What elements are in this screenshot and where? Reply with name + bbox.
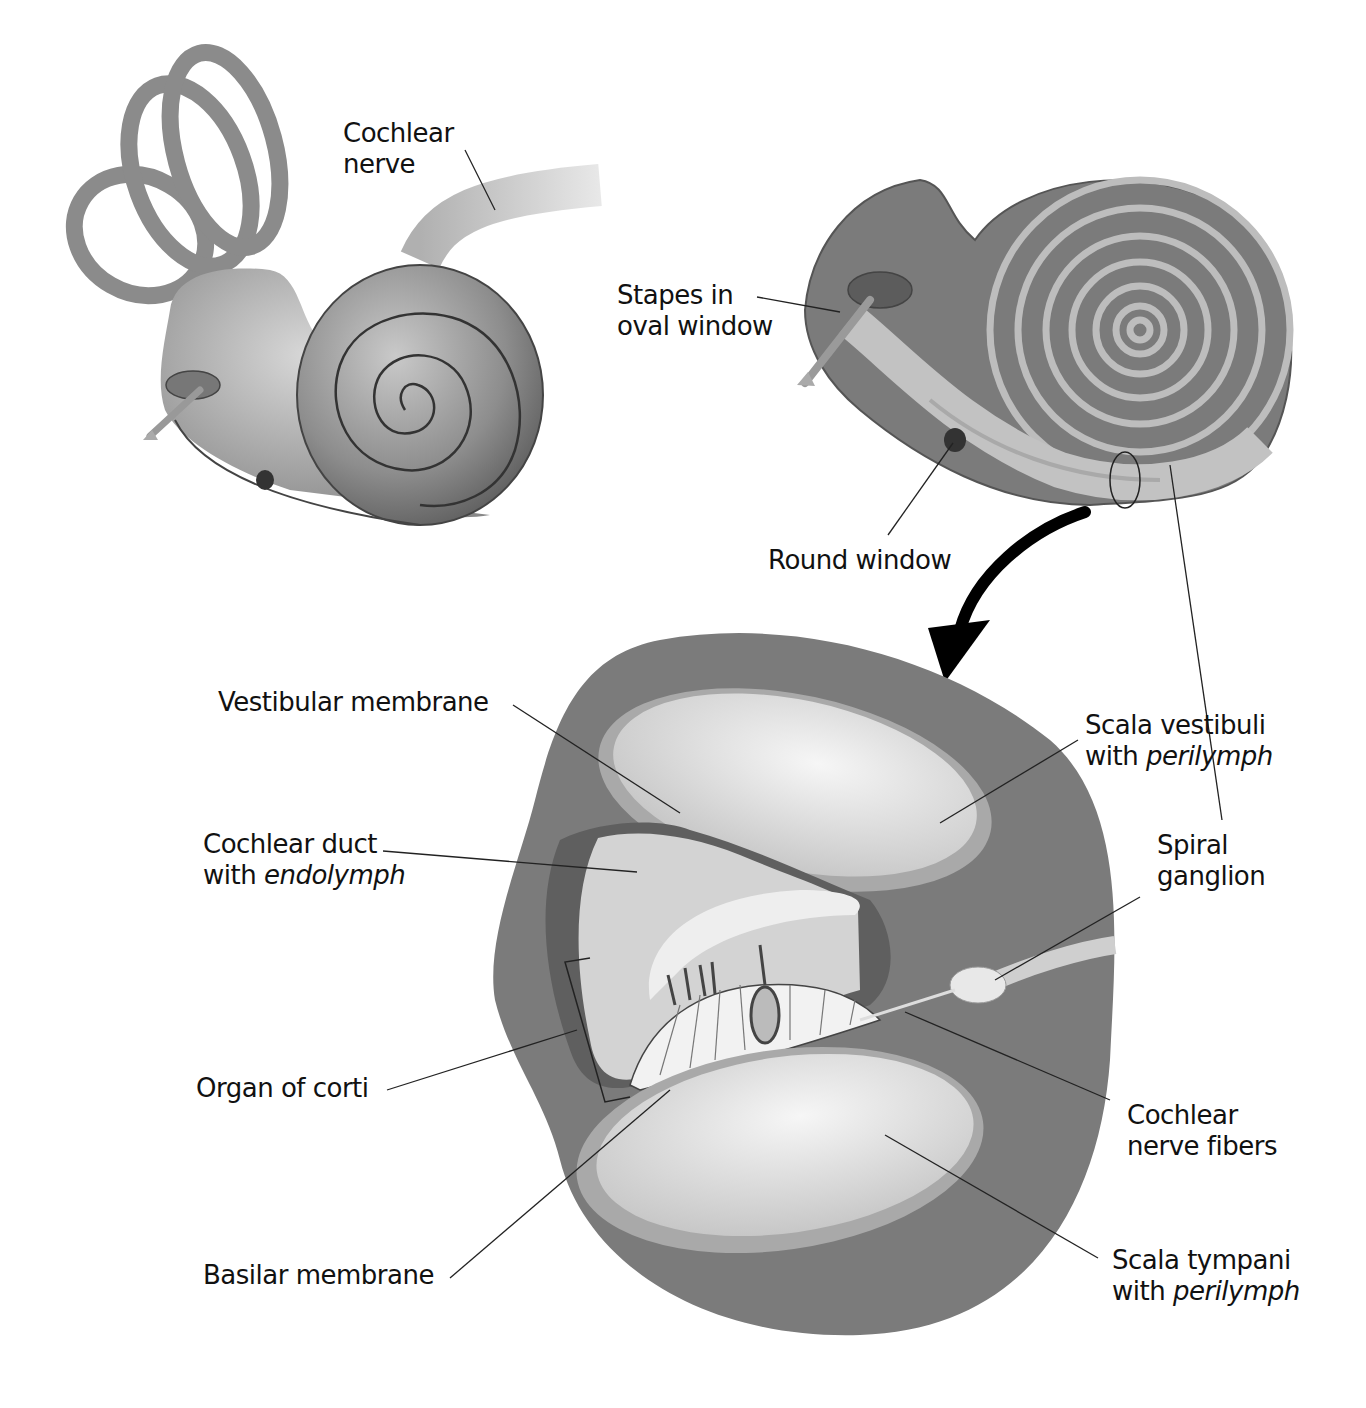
label-line: Cochlear: [343, 118, 454, 149]
spiral-ganglion: [950, 967, 1006, 1003]
inner-ear-external-illustration: [52, 40, 600, 525]
label-line: nerve: [343, 149, 454, 180]
label-line: Cochlear: [1127, 1100, 1277, 1131]
round-window: [256, 470, 274, 490]
label-round-window: Round window: [768, 545, 951, 576]
label-basilar-membrane: Basilar membrane: [203, 1260, 434, 1291]
label-stapes-in-oval-window: Stapes in oval window: [617, 280, 773, 342]
label-vestibular-membrane: Vestibular membrane: [218, 687, 489, 718]
label-line: Organ of corti: [196, 1073, 369, 1104]
label-line: Scala vestibuli: [1085, 710, 1273, 741]
diagram-artwork: [0, 0, 1366, 1408]
label-line: Round window: [768, 545, 951, 576]
label-line: Spiral: [1157, 830, 1265, 861]
label-cochlear-nerve-fibers: Cochlear nerve fibers: [1127, 1100, 1277, 1162]
label-cochlear-nerve: Cochlear nerve: [343, 118, 454, 180]
cochlea-shell: [297, 265, 543, 525]
label-line: nerve fibers: [1127, 1131, 1277, 1162]
label-organ-of-corti: Organ of corti: [196, 1073, 369, 1104]
label-line: Cochlear duct: [203, 829, 405, 860]
label-line: Vestibular membrane: [218, 687, 489, 718]
label-spiral-ganglion: Spiral ganglion: [1157, 830, 1265, 892]
label-line: Basilar membrane: [203, 1260, 434, 1291]
cochlear-nerve-illustration: [420, 185, 600, 260]
label-scala-vestibuli: Scala vestibuli with perilymph: [1085, 710, 1273, 772]
label-line: Stapes in: [617, 280, 773, 311]
label-scala-tympani: Scala tympani with perilymph: [1112, 1245, 1300, 1307]
label-line: with endolymph: [203, 860, 405, 891]
label-line: with perilymph: [1085, 741, 1273, 772]
label-line: ganglion: [1157, 861, 1265, 892]
label-line: with perilymph: [1112, 1276, 1300, 1307]
label-cochlear-duct: Cochlear duct with endolymph: [203, 829, 405, 891]
cochlea-cross-section-illustration: [383, 633, 1140, 1335]
label-line: oval window: [617, 311, 773, 342]
round-window: [944, 428, 966, 452]
curved-arrow-icon: [928, 512, 1085, 682]
label-line: Scala tympani: [1112, 1245, 1300, 1276]
